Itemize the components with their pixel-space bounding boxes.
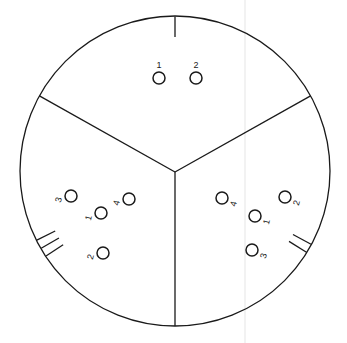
tick-mark: [37, 231, 55, 240]
divider-upper-right: [175, 96, 311, 172]
node-circle-icon: [249, 210, 261, 222]
node-bottom-left-2: 2: [85, 247, 109, 261]
tick-layer: [37, 17, 311, 257]
node-circle-icon: [246, 244, 258, 256]
node-bottom-left-1: 1: [83, 207, 107, 222]
node-circle-icon: [65, 190, 77, 202]
node-label: 1: [156, 60, 161, 70]
figure-root: 1234124213: [0, 0, 347, 343]
node-circle-icon: [153, 72, 165, 84]
node-top-1: 1: [153, 60, 165, 84]
node-label: 4: [111, 199, 122, 206]
node-group-bottom-right: 4213: [216, 191, 302, 260]
node-bottom-right-3: 3: [246, 244, 269, 260]
tick-group-bottom-right: [289, 235, 311, 253]
node-layer: 1234124213: [53, 60, 302, 260]
node-label: 1: [261, 218, 272, 225]
node-label: 4: [228, 200, 239, 207]
node-label: 3: [53, 196, 64, 203]
tick-mark: [293, 235, 311, 245]
node-circle-icon: [190, 72, 202, 84]
node-label: 1: [83, 214, 94, 221]
node-bottom-left-3: 3: [53, 190, 77, 204]
node-top-2: 2: [190, 60, 202, 84]
node-bottom-left-4: 4: [111, 193, 135, 207]
tick-mark: [41, 238, 59, 248]
node-label: 2: [291, 199, 302, 206]
node-bottom-right-1: 1: [249, 210, 272, 226]
node-bottom-right-2: 2: [279, 191, 302, 207]
divider-upper-left: [39, 96, 175, 172]
tick-group-bottom-left: [37, 231, 63, 256]
tick-mark: [46, 245, 63, 256]
tick-mark: [289, 241, 306, 252]
node-label: 2: [85, 253, 96, 260]
node-circle-icon: [97, 247, 109, 259]
divider-layer: [39, 96, 310, 326]
node-group-bottom-left: 3412: [53, 190, 135, 261]
node-group-top: 12: [153, 60, 202, 84]
sector-diagram: 1234124213: [0, 0, 347, 343]
node-label: 3: [258, 252, 269, 259]
node-bottom-right-4: 4: [216, 192, 239, 208]
node-circle-icon: [216, 192, 228, 204]
node-circle-icon: [123, 193, 135, 205]
node-label: 2: [193, 60, 198, 70]
node-circle-icon: [95, 207, 107, 219]
node-circle-icon: [279, 191, 291, 203]
